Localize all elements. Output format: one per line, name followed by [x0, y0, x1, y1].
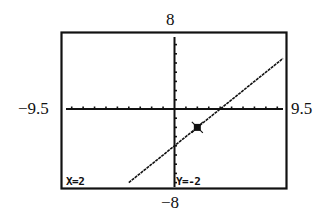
- axes: [66, 37, 283, 187]
- x-readout: X=2: [66, 176, 84, 187]
- trace-cursor-icon: [192, 122, 203, 133]
- graph-screen: [0, 0, 324, 221]
- plot-line: [129, 58, 283, 182]
- y-readout: Y=-2: [176, 176, 201, 187]
